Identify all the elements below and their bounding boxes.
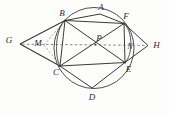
segment-ce: [60, 63, 125, 67]
point-label-g: G: [6, 35, 13, 44]
point-label-p: P: [96, 33, 102, 42]
point-label-h: H: [153, 40, 160, 49]
segment-ef: [124, 24, 125, 63]
segment-mb-dashed: [44, 22, 64, 46]
point-label-b: B: [59, 9, 65, 18]
segment-bf: [65, 21, 124, 24]
point-label-m: M: [34, 38, 42, 47]
point-label-n: N: [127, 42, 132, 51]
vertex-dot-p: [95, 44, 97, 46]
vertex-dot-c: [59, 65, 61, 67]
point-label-d: D: [89, 93, 96, 102]
vertex-dot-b: [64, 19, 66, 21]
segment-de: [92, 63, 125, 89]
point-label-f: F: [123, 12, 129, 21]
figure-canvas: [0, 0, 169, 114]
geometry-figure: A B C D E F G H P M N: [0, 0, 169, 114]
point-label-e: E: [126, 64, 132, 73]
vertex-dot-f: [123, 23, 125, 25]
circle-outline: [54, 8, 134, 89]
segment-mc-dashed: [44, 45, 60, 66]
segment-bc: [60, 21, 65, 67]
point-label-a: A: [98, 2, 104, 11]
point-label-c: C: [53, 68, 59, 77]
